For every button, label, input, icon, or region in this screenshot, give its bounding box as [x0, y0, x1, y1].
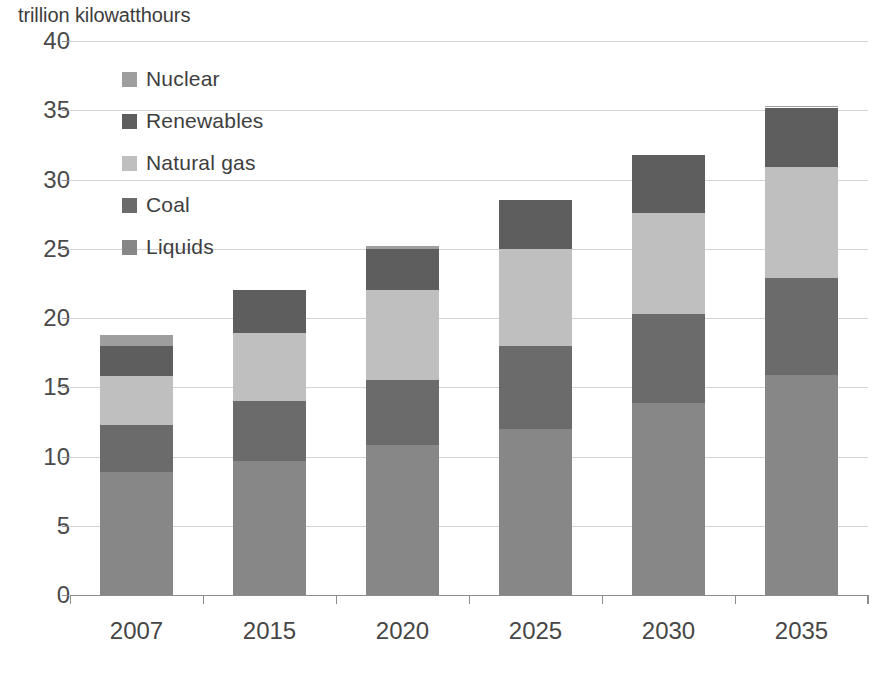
chart-legend: NuclearRenewablesNatural gasCoalLiquids: [122, 58, 352, 268]
bar-segment[interactable]: [100, 425, 173, 472]
bar-group[interactable]: [632, 155, 705, 595]
legend-item-label: Renewables: [146, 109, 264, 133]
bar-segment[interactable]: [100, 376, 173, 424]
y-axis-tick-mark: [62, 318, 69, 319]
x-axis-tick-mark: [735, 595, 736, 604]
y-axis-tick-mark: [62, 387, 69, 388]
bar-segment[interactable]: [765, 106, 838, 107]
bar-segment[interactable]: [366, 290, 439, 380]
legend-item-label: Natural gas: [146, 151, 256, 175]
bar-group[interactable]: [366, 246, 439, 595]
y-axis-tick-mark: [62, 110, 69, 111]
x-axis-tick-mark: [868, 595, 869, 604]
bar-segment[interactable]: [499, 346, 572, 429]
legend-swatch-icon: [122, 72, 137, 87]
bar-segment[interactable]: [366, 380, 439, 445]
legend-item[interactable]: Nuclear: [122, 58, 352, 100]
x-axis-tick-label: 2035: [775, 617, 828, 645]
bar-segment[interactable]: [233, 290, 306, 333]
bar-segment[interactable]: [499, 429, 572, 595]
x-axis-tick-label: 2020: [376, 617, 429, 645]
legend-swatch-icon: [122, 114, 137, 129]
x-axis-tick-label: 2015: [243, 617, 296, 645]
bar-segment[interactable]: [233, 333, 306, 401]
x-axis-tick-label: 2007: [110, 617, 163, 645]
y-axis-title: trillion kilowatthours: [18, 4, 190, 27]
legend-item[interactable]: Coal: [122, 184, 352, 226]
bar-group[interactable]: [499, 200, 572, 595]
bar-group[interactable]: [100, 335, 173, 595]
y-axis-tick-mark: [62, 180, 69, 181]
bar-segment[interactable]: [100, 335, 173, 346]
x-axis-tick-mark: [602, 595, 603, 604]
bar-segment[interactable]: [366, 445, 439, 595]
x-axis-tick-label: 2025: [509, 617, 562, 645]
legend-swatch-icon: [122, 240, 137, 255]
y-axis-tick-mark: [62, 595, 69, 596]
legend-item[interactable]: Liquids: [122, 226, 352, 268]
y-axis-tick-mark: [62, 41, 69, 42]
y-axis-tick-mark: [62, 526, 69, 527]
legend-swatch-icon: [122, 198, 137, 213]
legend-item[interactable]: Renewables: [122, 100, 352, 142]
legend-item[interactable]: Natural gas: [122, 142, 352, 184]
legend-item-label: Nuclear: [146, 67, 220, 91]
bar-group[interactable]: [233, 290, 306, 595]
bar-group[interactable]: [765, 106, 838, 595]
bar-segment[interactable]: [366, 246, 439, 249]
legend-item-label: Coal: [146, 193, 190, 217]
bar-segment[interactable]: [765, 375, 838, 595]
bar-segment[interactable]: [100, 472, 173, 595]
bar-segment[interactable]: [100, 346, 173, 376]
bar-segment[interactable]: [632, 314, 705, 403]
x-axis-tick-mark: [203, 595, 204, 604]
x-axis: 200720152020202520302035: [70, 595, 868, 665]
bar-segment[interactable]: [499, 249, 572, 346]
bar-segment[interactable]: [233, 461, 306, 595]
y-axis-tick-mark: [62, 249, 69, 250]
legend-item-label: Liquids: [146, 235, 214, 259]
x-axis-tick-mark: [469, 595, 470, 604]
x-axis-tick-label: 2030: [642, 617, 695, 645]
bar-segment[interactable]: [499, 200, 572, 248]
bar-segment[interactable]: [632, 155, 705, 213]
bar-segment[interactable]: [765, 108, 838, 168]
x-axis-tick-mark: [336, 595, 337, 604]
bar-segment[interactable]: [632, 403, 705, 596]
y-axis-tick-mark: [62, 457, 69, 458]
bar-segment[interactable]: [765, 167, 838, 278]
bar-segment[interactable]: [632, 213, 705, 314]
x-axis-left-cap: [70, 595, 71, 604]
bar-segment[interactable]: [765, 278, 838, 375]
y-axis: 4035302520151050: [0, 41, 70, 595]
bar-segment[interactable]: [366, 249, 439, 291]
bar-segment[interactable]: [233, 401, 306, 461]
legend-swatch-icon: [122, 156, 137, 171]
stacked-bar-chart: trillion kilowatthours 4035302520151050 …: [0, 0, 888, 676]
